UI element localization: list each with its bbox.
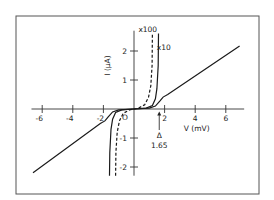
x-tick-label: 6 [223,114,228,123]
x-tick-label: -4 [66,114,74,123]
annotation-x100: x100 [138,25,157,34]
annotations: x100x10Δ1.65 [138,25,171,150]
axes: V (mV)I (μA) [31,31,244,176]
delta-arrow-head [157,111,161,115]
x-axis-label: V (mV) [184,124,210,133]
iv-curve-chart: V (mV)I (μA) -6-4-2246-2-112O x100x10Δ1.… [0,0,274,200]
x-tick-label: 4 [193,114,198,123]
y-tick-label: -1 [120,134,128,143]
y-tick-label: -2 [120,163,128,172]
x-tick-label: 2 [162,114,167,123]
x-tick-label: -6 [35,114,43,123]
annotation-1-65: 1.65 [151,141,168,150]
y-tick-label: 2 [122,47,127,56]
series-group [33,34,240,176]
y-axis-label: I (μA) [103,55,112,75]
delta-annotation: Δ [157,131,163,140]
y-tick-label: 1 [122,76,127,85]
annotation-x10: x10 [157,43,171,52]
